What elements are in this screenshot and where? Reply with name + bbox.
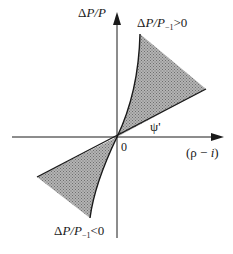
diagram-canvas <box>0 0 233 254</box>
lower-region-label: ΔP/P−1<0 <box>54 224 104 240</box>
psi-line <box>37 89 206 177</box>
lower-shaded-region <box>37 137 117 218</box>
y-axis-label: ΔP/P <box>78 6 106 19</box>
upper-region-label: ΔP/P−1>0 <box>137 16 187 32</box>
x-axis-arrow-icon <box>211 133 224 141</box>
psi-line-label: ψ' <box>150 120 160 133</box>
x-axis-label: (ρ − i) <box>186 146 219 159</box>
origin-label: 0 <box>121 141 127 153</box>
y-axis-arrow-icon <box>113 12 121 25</box>
upper-shaded-region <box>117 34 206 137</box>
phase-diagram: ΔP/P ΔP/P−1>0 ΔP/P−1<0 (ρ − i) 0 ψ' <box>0 0 233 254</box>
